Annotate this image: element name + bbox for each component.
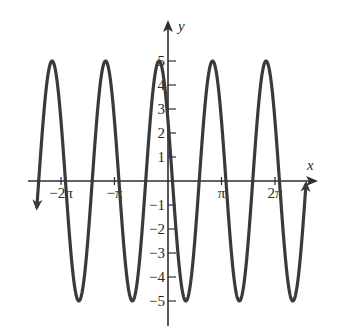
sine-graph: x y 54321−1−2−3−4−5 −2π−ππ2π (0, 0, 337, 331)
x-tick-label: π (218, 185, 226, 201)
y-tick-label: −1 (149, 197, 165, 213)
y-tick-label: −5 (149, 293, 165, 309)
y-tick-label: 2 (158, 125, 166, 141)
y-tick-label: 1 (158, 149, 166, 165)
y-tick-label: −4 (149, 269, 165, 285)
y-axis-label: y (176, 18, 185, 34)
y-tick-label: 3 (158, 101, 166, 117)
x-tick-label: −2π (49, 185, 73, 201)
y-tick-label: −3 (149, 245, 165, 261)
y-tick-label: −2 (149, 221, 165, 237)
x-axis-label: x (306, 157, 314, 173)
